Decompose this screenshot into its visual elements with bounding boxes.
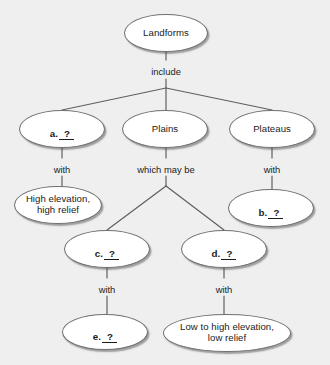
concept-map-diagram: Landforms a.? Plains Plateaus High eleva… [0, 0, 330, 365]
node-label: Plains [147, 124, 183, 135]
fan-plains-right [166, 186, 224, 230]
node-label: e.? [88, 321, 122, 344]
node-label: High elevation, high relief [21, 194, 95, 216]
node-landforms: Landforms [124, 14, 208, 52]
node-label: d.? [207, 238, 242, 261]
blank-letter: c. [95, 248, 103, 259]
edge-label-which-may-be: which may be [137, 164, 194, 175]
blank-rule: ? [221, 249, 236, 261]
blank-letter: e. [93, 331, 101, 342]
node-label: Plateaus [248, 124, 296, 135]
edge-label-with-d: with [216, 284, 233, 295]
blank-rule: ? [59, 129, 74, 141]
fan-plains-left [107, 186, 166, 230]
edge-label-with-plateaus: with [264, 164, 281, 175]
fan-include-left [62, 88, 166, 110]
node-b-blank[interactable]: b.? [228, 189, 314, 227]
node-high-elevation-high-relief: High elevation, high relief [14, 186, 102, 224]
node-label: a.? [45, 118, 79, 141]
node-label: Landforms [138, 28, 194, 39]
edge-label-with-a: with [54, 164, 71, 175]
node-c-blank[interactable]: c.? [64, 230, 150, 268]
blank-letter: b. [259, 207, 268, 218]
connector-layer [0, 0, 330, 365]
node-low-to-high-elevation-low-relief: Low to high elevation, low relief [163, 314, 291, 352]
node-d-blank[interactable]: d.? [181, 230, 267, 268]
node-label: b.? [254, 197, 289, 220]
node-a-blank[interactable]: a.? [19, 110, 105, 148]
blank-letter: a. [50, 128, 58, 139]
node-plains: Plains [122, 110, 208, 148]
node-label: Low to high elevation, low relief [175, 322, 279, 344]
blank-rule: ? [104, 249, 119, 261]
edge-label-with-c: with [99, 284, 116, 295]
blank-rule: ? [102, 332, 117, 344]
node-e-blank[interactable]: e.? [62, 314, 148, 350]
edge-label-include: include [151, 66, 181, 77]
blank-letter: d. [212, 248, 221, 259]
blank-rule: ? [268, 208, 283, 220]
node-plateaus: Plateaus [229, 110, 315, 148]
node-label: c.? [90, 238, 124, 261]
fan-include-right [166, 88, 272, 110]
